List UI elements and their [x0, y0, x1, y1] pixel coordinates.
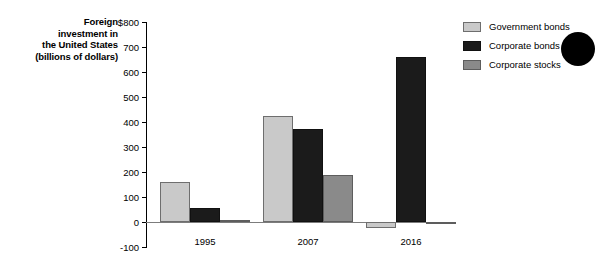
bar: [396, 57, 426, 223]
y-tick-label: 600: [123, 67, 139, 78]
legend-item: Corporate bonds: [463, 36, 570, 55]
y-axis-title-line-3: the United States: [10, 39, 118, 51]
legend: Government bondsCorporate bondsCorporate…: [463, 17, 570, 74]
x-axis-label: 2016: [400, 236, 421, 247]
y-tick-mark: [142, 97, 147, 98]
x-axis-label: 2007: [297, 236, 318, 247]
y-tick-label: 300: [123, 142, 139, 153]
bar: [190, 208, 220, 222]
y-tick-mark: [142, 247, 147, 248]
legend-item: Government bonds: [463, 17, 570, 36]
y-tick-label: 0: [134, 217, 139, 228]
y-tick-mark: [142, 122, 147, 123]
y-tick-mark: [142, 47, 147, 48]
legend-swatch-icon: [463, 60, 481, 70]
legend-label: Corporate bonds: [489, 40, 560, 51]
legend-swatch-icon: [463, 22, 481, 32]
legend-item: Corporate stocks: [463, 55, 570, 74]
legend-label: Corporate stocks: [489, 59, 561, 70]
y-tick-mark: [142, 197, 147, 198]
y-tick-label: 400: [123, 117, 139, 128]
bar: [323, 175, 353, 223]
plot-area: $8007006005004003002001000-100 199520072…: [146, 22, 456, 247]
y-tick-mark: [142, 147, 147, 148]
y-tick-label: 700: [123, 42, 139, 53]
y-tick-mark: [142, 72, 147, 73]
x-axis-label: 1995: [194, 236, 215, 247]
y-tick-mark: [142, 22, 147, 23]
black-dot-artifact: [561, 32, 595, 66]
y-tick-label: -100: [120, 242, 139, 253]
y-tick-mark: [142, 172, 147, 173]
zero-baseline: [146, 222, 456, 223]
y-axis-title-line-4: (billions of dollars): [10, 51, 118, 63]
y-tick-label: 200: [123, 167, 139, 178]
y-tick-label: 500: [123, 92, 139, 103]
y-axis-title-line-2: investment in: [10, 28, 118, 40]
bar: [366, 222, 396, 228]
bar: [160, 182, 190, 222]
bar: [263, 116, 293, 222]
y-tick-label: 100: [123, 192, 139, 203]
y-axis-title-line-1: Foreign: [10, 16, 118, 28]
y-axis-title: Foreign investment in the United States …: [10, 16, 118, 62]
legend-label: Government bonds: [489, 21, 570, 32]
y-axis-line: [146, 22, 147, 247]
bar: [426, 222, 456, 224]
bar: [220, 220, 250, 223]
legend-swatch-icon: [463, 41, 481, 51]
bar: [293, 129, 323, 222]
y-tick-label: $800: [118, 17, 139, 28]
